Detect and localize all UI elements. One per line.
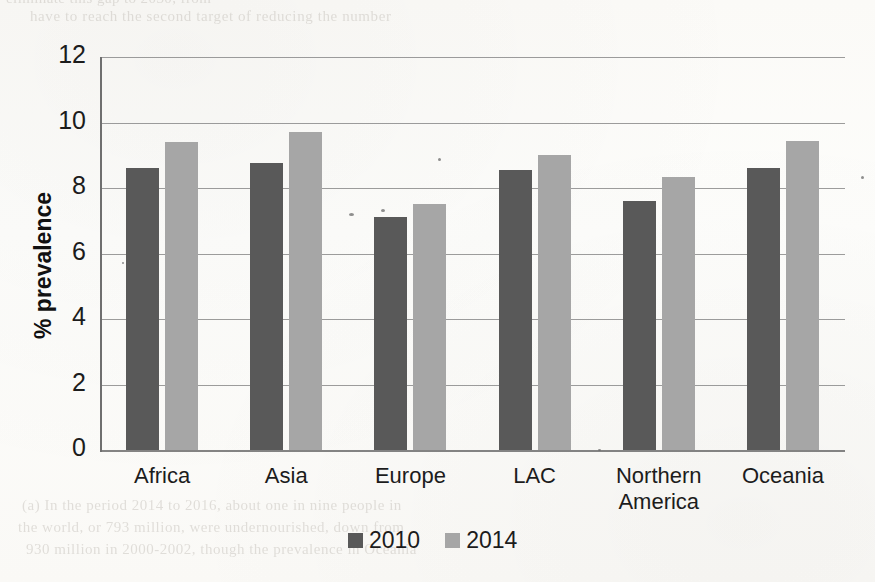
bar bbox=[623, 201, 656, 450]
legend-entry: 2014 bbox=[445, 527, 517, 554]
gridline bbox=[100, 57, 845, 58]
scan-speck bbox=[381, 209, 385, 212]
gridline bbox=[100, 188, 845, 189]
legend-entry: 2010 bbox=[348, 527, 420, 554]
x-axis-line bbox=[100, 450, 845, 452]
scan-speck bbox=[861, 176, 864, 179]
bar bbox=[165, 142, 198, 450]
y-axis-label: % prevalence bbox=[30, 191, 57, 338]
scan-speck bbox=[122, 262, 124, 264]
bar bbox=[250, 163, 283, 450]
bar bbox=[499, 170, 532, 450]
x-axis-tick-label: Oceania bbox=[703, 463, 863, 489]
chart-legend: 20102014 bbox=[348, 527, 535, 554]
bar bbox=[662, 177, 695, 450]
gridline bbox=[100, 123, 845, 124]
x-axis-tick-label-line: Oceania bbox=[703, 463, 863, 489]
y-axis-tick-label: 10 bbox=[34, 106, 86, 135]
scan-speck bbox=[598, 449, 601, 451]
y-axis-tick-label: 0 bbox=[34, 433, 86, 462]
y-axis-tick-label: 2 bbox=[34, 368, 86, 397]
bar bbox=[747, 168, 780, 450]
x-axis-tick-label-line: America bbox=[579, 489, 739, 515]
legend-swatch bbox=[348, 533, 363, 548]
legend-label: 2014 bbox=[466, 527, 517, 554]
bar bbox=[413, 204, 446, 450]
scan-speck bbox=[438, 158, 441, 161]
scan-speck bbox=[349, 213, 354, 216]
y-axis-line bbox=[100, 57, 102, 452]
gridline bbox=[100, 319, 845, 320]
bar bbox=[126, 168, 159, 450]
bar-chart: 024681012 AfricaAsiaEuropeLACNorthernAme… bbox=[0, 0, 875, 582]
gridline bbox=[100, 385, 845, 386]
bar bbox=[538, 155, 571, 450]
legend-swatch bbox=[445, 533, 460, 548]
gridline bbox=[100, 254, 845, 255]
bar bbox=[374, 217, 407, 450]
legend-label: 2010 bbox=[369, 527, 420, 554]
bar bbox=[786, 141, 819, 450]
bar bbox=[289, 132, 322, 450]
y-axis-tick-label: 12 bbox=[34, 40, 86, 69]
